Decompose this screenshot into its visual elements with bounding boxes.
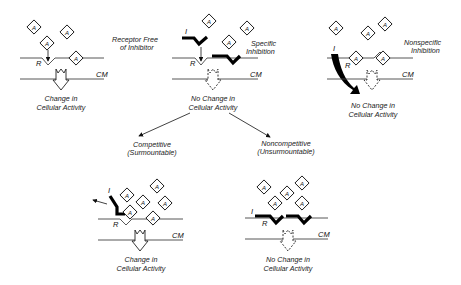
outcome-label: No Change in	[351, 101, 395, 110]
svg-text:A: A	[206, 19, 211, 25]
svg-text:A: A	[333, 26, 338, 32]
outcome-label: Cellular Activity	[349, 110, 398, 119]
panel-title: Inhibition	[246, 47, 275, 56]
svg-text:A: A	[272, 201, 277, 207]
agonist-icon: A	[376, 51, 390, 65]
outcome-label: No Change in	[191, 94, 235, 103]
receptor-membrane-line	[172, 58, 258, 65]
receptor-membrane-line	[20, 52, 104, 65]
panel-nonspecific-inhibition: A A A A A I R CM Nonspecific Inhibition …	[327, 17, 442, 119]
inhibitor-bound-icon	[286, 216, 311, 223]
agonist-icon: A	[123, 205, 137, 219]
svg-text:A: A	[365, 31, 370, 37]
receptor-label: R	[345, 61, 351, 70]
svg-text:A: A	[244, 26, 249, 32]
inhibitor-bound-icon	[255, 216, 283, 223]
branch-arrow-noncompetitive	[229, 113, 270, 137]
agonist-icon: A	[240, 21, 254, 35]
activity-arrow-icon	[132, 230, 148, 251]
receptor-label: R	[113, 220, 119, 229]
agonist-icon: A	[295, 196, 309, 210]
cm-label: CM	[318, 230, 330, 239]
agonist-icon: A	[40, 36, 54, 50]
receptor-membrane-line	[327, 52, 413, 58]
cm-label: CM	[250, 70, 262, 79]
agonist-icon: A	[202, 14, 216, 28]
agonist-icon: A	[146, 211, 160, 225]
svg-text:A: A	[31, 25, 36, 31]
agonist-icon: A	[120, 188, 134, 202]
cm-label: CM	[96, 70, 108, 79]
svg-text:A: A	[150, 216, 155, 222]
svg-text:A: A	[382, 22, 387, 28]
svg-text:A: A	[226, 40, 231, 46]
svg-text:A: A	[261, 185, 266, 191]
no-activity-arrow-icon	[205, 69, 221, 90]
svg-text:A: A	[299, 201, 304, 207]
inhibitor-label: I	[108, 186, 110, 195]
branch-title: (Surmountable)	[127, 148, 177, 157]
inhibitor-label: I	[333, 44, 335, 53]
svg-text:A: A	[124, 193, 129, 199]
receptor-label: R	[190, 59, 196, 68]
outcome-label: Cellular Activity	[117, 264, 166, 273]
svg-text:A: A	[154, 184, 159, 190]
agonist-icon: A	[268, 196, 282, 210]
outcome-label: Cellular Activity	[264, 264, 313, 273]
agonist-icon: A	[158, 196, 172, 210]
inhibitor-free-icon	[182, 37, 207, 44]
svg-text:A: A	[44, 41, 49, 47]
agonist-icon: A	[280, 186, 294, 200]
cm-label: CM	[402, 70, 414, 79]
outcome-label: Cellular Activity	[189, 103, 238, 112]
agonist-icon: A	[329, 21, 343, 35]
svg-text:A: A	[284, 191, 289, 197]
no-activity-arrow-icon	[364, 70, 380, 90]
inhibitor-displaced-icon	[110, 196, 125, 214]
activity-arrow-icon	[53, 69, 69, 90]
agonist-icon: A	[378, 17, 392, 31]
agonist-icon: A	[69, 51, 83, 65]
panel-specific-inhibition: A A A I R CM Specific Inhibition No Chan…	[172, 14, 277, 112]
agonist-icon: A	[361, 26, 375, 40]
outcome-label: Cellular Activity	[37, 103, 86, 112]
outcome-label: Change in	[45, 94, 78, 103]
svg-text:A: A	[299, 181, 304, 187]
displacement-arrow	[93, 200, 107, 204]
panel-title: Inhibition	[411, 46, 440, 55]
svg-text:A: A	[73, 56, 78, 62]
agonist-icon: A	[60, 25, 74, 39]
agonist-icon: A	[257, 180, 271, 194]
branch-arrow-competitive	[139, 113, 190, 136]
svg-text:A: A	[64, 30, 69, 36]
svg-text:A: A	[380, 56, 385, 62]
agonist-icon: A	[136, 195, 150, 209]
receptor-membrane-line	[98, 213, 183, 225]
branch-title: (Unsurmountable)	[257, 147, 315, 156]
svg-text:A: A	[140, 200, 145, 206]
svg-text:A: A	[353, 56, 358, 62]
receptor-inhibition-diagram: A A A A R CM Receptor Free of Inhibitor …	[0, 0, 461, 285]
cm-label: CM	[172, 231, 184, 240]
svg-text:A: A	[162, 201, 167, 207]
outcome-label: No Change in	[266, 255, 310, 264]
receptor-label: R	[262, 219, 268, 228]
inhibitor-label: I	[251, 207, 253, 216]
svg-text:A: A	[127, 210, 132, 216]
panel-competitive: A A A A I A A R CM Change in Cellular Ac…	[93, 179, 184, 273]
panel-title: of Inhibitor	[120, 43, 154, 52]
inhibitor-label: I	[185, 27, 187, 36]
agonist-icon: A	[295, 176, 309, 190]
agonist-icon: A	[27, 20, 41, 34]
outcome-label: Change in	[125, 255, 158, 264]
agonist-icon: A	[150, 179, 164, 193]
agonist-icon: A	[349, 51, 363, 65]
no-activity-arrow-icon	[280, 230, 296, 251]
panel-noncompetitive: A A A A A I R CM No Change in Cellular A…	[245, 176, 330, 273]
panel-receptor-free: A A A A R CM Receptor Free of Inhibitor …	[20, 20, 158, 112]
inhibitor-bound-icon	[212, 56, 240, 63]
agonist-icon: A	[222, 35, 236, 49]
receptor-label: R	[36, 59, 42, 68]
